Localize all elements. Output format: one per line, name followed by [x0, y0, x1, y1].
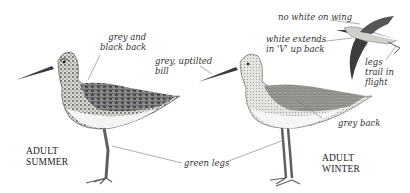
- caption-line: WINTER: [322, 164, 360, 175]
- summer-bill: [16, 66, 54, 80]
- leader-grey-black-back: [88, 55, 100, 80]
- label-green-legs: green legs: [184, 158, 229, 168]
- caption-line: ADULT: [322, 153, 360, 164]
- label-grey-back: grey back: [338, 118, 380, 128]
- flight-upper-wing: [360, 16, 394, 34]
- summer-legs: [86, 128, 112, 184]
- label-line: bill: [155, 66, 212, 76]
- label-line: green legs: [184, 158, 229, 168]
- caption-line: SUMMER: [26, 157, 68, 168]
- label-line: white extends: [266, 34, 326, 44]
- winter-legs: [270, 128, 300, 186]
- label-line: flight: [365, 77, 394, 87]
- label-no-white-wing: no white on wing: [278, 12, 352, 22]
- flight-legs: [388, 42, 400, 54]
- label-line: grey back: [338, 118, 380, 128]
- label-line: trail in: [365, 67, 394, 77]
- caption-line: ADULT: [26, 146, 68, 157]
- leader-green-legs-winter: [226, 140, 284, 162]
- label-white-v: white extends in 'V' up back: [266, 34, 326, 54]
- label-line: black back: [100, 42, 146, 52]
- label-line: grey, uptilted: [155, 56, 212, 66]
- label-line: grey and: [100, 32, 146, 42]
- caption-adult-winter: ADULT WINTER: [322, 153, 360, 175]
- label-uptilted-bill: grey, uptilted bill: [155, 56, 212, 76]
- label-line: legs: [365, 57, 394, 67]
- label-line: in 'V' up back: [266, 44, 326, 54]
- label-legs-trail: legs trail in flight: [365, 57, 394, 87]
- caption-adult-summer: ADULT SUMMER: [26, 146, 68, 168]
- label-grey-black-back: grey and black back: [100, 32, 146, 52]
- leader-green-legs-summer: [112, 146, 182, 163]
- label-line: no white on wing: [278, 12, 352, 22]
- field-guide-plate: grey and black back grey, uptilted bill …: [0, 0, 410, 193]
